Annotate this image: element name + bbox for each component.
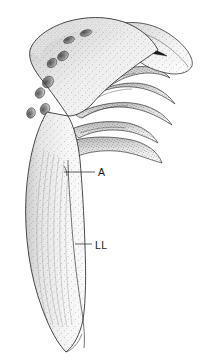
figure-container: A LL bbox=[0, 0, 203, 359]
label-a: A bbox=[98, 166, 105, 178]
label-ll: LL bbox=[95, 239, 107, 251]
anatomical-illustration: A LL bbox=[0, 0, 203, 359]
